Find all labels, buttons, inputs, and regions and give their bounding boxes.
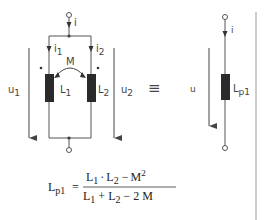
top-terminal-left <box>67 13 72 18</box>
inductor-L1 <box>45 74 54 102</box>
polarity-dot-L2 <box>97 67 100 70</box>
inductor-Lp1 <box>221 74 230 100</box>
right-circuit: i Lp1 u <box>190 15 250 151</box>
parallel-coupled-inductors-diagram: i i1 i2 M L1 L2 u1 u2 <box>0 0 265 220</box>
current-arrow-i-right <box>223 31 228 37</box>
current-label-i: i <box>74 17 77 28</box>
inductor-label-L2: L2 <box>98 84 109 98</box>
formula-Lp1: Lp1 = L1·L2−M2 L1+L2−2 M <box>48 168 176 205</box>
left-circuit: i i1 i2 M L1 L2 u1 u2 <box>8 13 133 153</box>
inductor-label-L1: L1 <box>60 84 71 98</box>
mutual-label-M: M <box>66 56 75 67</box>
formula-denominator: L1+L2−2 M <box>83 189 153 205</box>
voltage-label-u2: u2 <box>121 84 133 98</box>
current-arrow-i2 <box>89 46 94 52</box>
bottom-terminal-left <box>67 148 72 153</box>
current-arrow-i <box>67 22 72 28</box>
formula-numerator: L1·L2−M2 <box>86 168 146 186</box>
current-label-i2: i2 <box>96 43 105 57</box>
current-label-i-right: i <box>231 25 234 35</box>
inductor-label-Lp1: Lp1 <box>233 83 250 97</box>
current-arrow-i1 <box>47 46 52 52</box>
top-terminal-right <box>223 15 228 20</box>
current-label-i1: i1 <box>54 43 63 57</box>
formula-equals: = <box>72 180 79 194</box>
equivalence-symbol: ≡ <box>148 79 161 97</box>
inductor-L2 <box>87 74 96 102</box>
voltage-label-u: u <box>190 84 196 94</box>
voltage-label-u1: u1 <box>8 84 20 98</box>
polarity-dot-L1 <box>40 67 43 70</box>
mutual-inductance-arc <box>56 68 84 76</box>
bottom-terminal-right <box>223 146 228 151</box>
formula-lhs: Lp1 <box>48 180 65 196</box>
